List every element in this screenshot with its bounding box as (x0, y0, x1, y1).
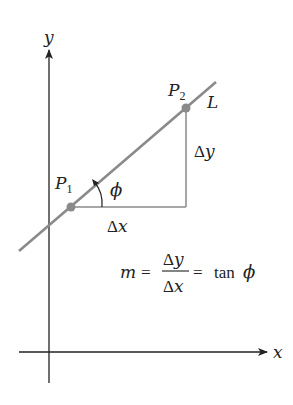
point-P1: P1 (54, 173, 76, 212)
line-L-label: L (206, 92, 218, 112)
angle-label: ϕ (110, 179, 122, 200)
angle-phi: ϕ (92, 179, 122, 207)
formula-equals-1: = (141, 263, 151, 282)
point-P1-label: P1 (54, 173, 72, 196)
point-P2-label: P2 (167, 80, 185, 103)
formula-phi: ϕ (243, 261, 255, 282)
slope-formula: m = Δy Δx = tan ϕ (120, 249, 255, 296)
delta-x-label: ΔΔxx (107, 216, 128, 236)
y-axis-label: y (43, 27, 54, 47)
formula-lhs: m (120, 262, 136, 282)
slope-triangle: ΔΔxx Δy (71, 108, 215, 236)
delta-y-label: Δy (194, 141, 215, 161)
slope-diagram: y x L ΔΔxx Δy ϕ P1 P2 m = Δy Δx = tan (0, 0, 293, 405)
x-axis: x (19, 342, 283, 362)
formula-tan: tan (214, 263, 235, 282)
y-axis: y (43, 27, 54, 383)
point-P2: P2 (167, 80, 191, 113)
formula-numerator: Δy (163, 249, 184, 269)
formula-denominator: Δx (163, 276, 184, 296)
x-axis-label: x (273, 342, 283, 362)
formula-equals-2: = (193, 263, 203, 282)
